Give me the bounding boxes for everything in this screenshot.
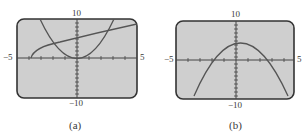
x-min-label: −5	[3, 53, 13, 62]
y-min-label: −10	[228, 101, 242, 110]
x-min-label: −5	[164, 55, 174, 64]
x-max-label: 5	[140, 53, 145, 62]
graph-b-plot	[150, 0, 305, 140]
y-min-label: −10	[69, 99, 83, 108]
x-max-label: 5	[297, 55, 302, 64]
y-max-label: 10	[72, 9, 81, 18]
caption-a: (a)	[69, 120, 81, 131]
graph-panel-a: 10 −5 5 −10 (a)	[0, 0, 152, 140]
y-max-label: 10	[231, 10, 240, 19]
graph-panel-b: 10 −5 5 −10 (b)	[150, 0, 302, 140]
caption-b: (b)	[229, 120, 242, 131]
